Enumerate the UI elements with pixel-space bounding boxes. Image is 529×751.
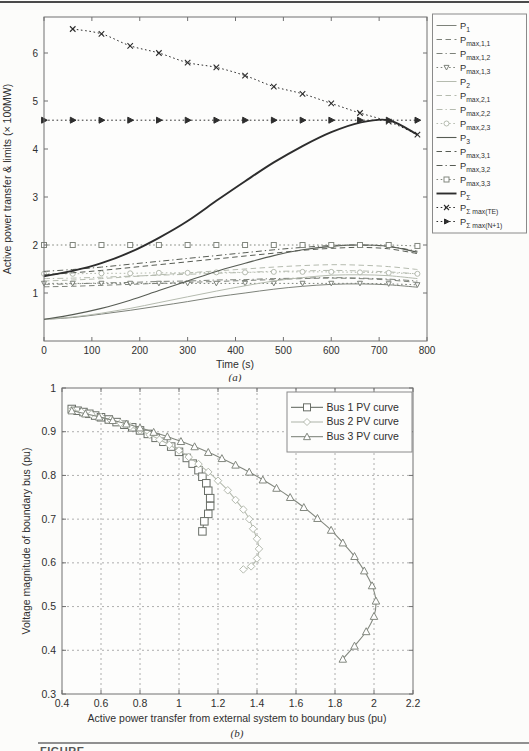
marker-square bbox=[206, 494, 214, 502]
y-tick-label: 0.3 bbox=[41, 688, 56, 700]
marker-square bbox=[203, 480, 211, 488]
y-tick-label: 2 bbox=[32, 240, 38, 251]
marker-square bbox=[304, 404, 311, 411]
marker-square bbox=[206, 502, 214, 510]
marker-circle bbox=[243, 270, 248, 275]
x-tick-label: 1.4 bbox=[250, 697, 265, 709]
marker-circle bbox=[386, 270, 391, 275]
x-tick-label: 400 bbox=[227, 345, 244, 356]
marker-square bbox=[357, 243, 362, 248]
marker-square bbox=[271, 243, 276, 248]
x-tick-label: 500 bbox=[275, 345, 292, 356]
marker-square bbox=[70, 243, 75, 248]
marker-square bbox=[329, 243, 334, 248]
x-tick-label: 300 bbox=[179, 345, 196, 356]
marker-circle bbox=[156, 270, 161, 275]
marker-circle bbox=[99, 271, 104, 276]
y-tick-label: 5 bbox=[32, 96, 38, 107]
y-tick-label: 3 bbox=[32, 192, 38, 203]
plot-background bbox=[44, 17, 427, 341]
chart-a-caption: (a) bbox=[229, 371, 242, 382]
x-tick-label: 1.6 bbox=[289, 697, 304, 709]
marker-square bbox=[205, 487, 213, 495]
marker-square bbox=[386, 243, 391, 248]
legend: P1Pmax,1,1Pmax,1,2Pmax,1,3P2Pmax,2,1Pmax… bbox=[433, 14, 527, 233]
legend-label: Bus 3 PV curve bbox=[327, 430, 400, 442]
y-tick-label: 4 bbox=[32, 144, 38, 155]
figure-page: 0100200300400500600700800123456P1Pmax,1,… bbox=[0, 0, 529, 751]
marker-circle bbox=[128, 271, 133, 276]
chart-a-xlabel: Time (s) bbox=[216, 358, 254, 370]
marker-square bbox=[185, 243, 190, 248]
x-tick-label: 2.2 bbox=[406, 697, 421, 709]
y-tick-label: 1 bbox=[32, 288, 38, 299]
x-tick-label: 200 bbox=[131, 345, 148, 356]
marker-circle bbox=[357, 270, 362, 275]
chart-a-content: 0100200300400500600700800123456P1Pmax,1,… bbox=[32, 14, 526, 356]
x-tick-label: 0.6 bbox=[94, 697, 109, 709]
chart-a-ylabel: Active power transfer & limits (× 100MW) bbox=[1, 84, 13, 275]
chart-b-xlabel: Active power transfer from external syst… bbox=[88, 712, 387, 724]
marker-circle bbox=[271, 269, 276, 274]
x-tick-label: 0.4 bbox=[55, 697, 70, 709]
x-tick-label: 100 bbox=[84, 345, 101, 356]
marker-square bbox=[201, 518, 209, 526]
legend-label: Bus 2 PV curve bbox=[327, 415, 400, 427]
y-tick-label: 0.6 bbox=[41, 556, 56, 568]
x-tick-label: 1 bbox=[176, 697, 182, 709]
chart-a-active-power: 0100200300400500600700800123456P1Pmax,1,… bbox=[0, 0, 529, 382]
x-tick-label: 800 bbox=[419, 345, 436, 356]
marker-square bbox=[214, 243, 219, 248]
marker-circle bbox=[329, 269, 334, 274]
y-tick-label: 1 bbox=[50, 382, 56, 394]
marker-square bbox=[205, 510, 213, 518]
chart-b-ylabel: Voltage magnitude of boundary bus (pu) bbox=[20, 448, 32, 635]
marker-square bbox=[99, 243, 104, 248]
y-tick-label: 0.5 bbox=[41, 600, 56, 612]
marker-square bbox=[444, 177, 449, 182]
bottom-rule bbox=[38, 742, 529, 744]
marker-square bbox=[156, 243, 161, 248]
legend-label: Bus 1 PV curve bbox=[327, 401, 400, 413]
y-tick-label: 0.8 bbox=[41, 469, 56, 481]
x-tick-label: 600 bbox=[323, 345, 340, 356]
x-tick-label: 2 bbox=[371, 697, 377, 709]
marker-square bbox=[415, 243, 420, 248]
marker-circle bbox=[444, 121, 449, 126]
marker-square bbox=[300, 243, 305, 248]
chart-b-caption: (b) bbox=[231, 727, 244, 740]
marker-square bbox=[243, 243, 248, 248]
top-rule bbox=[0, 1, 529, 3]
chart-b-content: 0.40.60.811.21.41.61.822.20.30.40.50.60.… bbox=[41, 382, 420, 709]
marker-square bbox=[128, 243, 133, 248]
legend: Bus 1 PV curveBus 2 PV curveBus 3 PV cur… bbox=[287, 392, 412, 452]
marker-circle bbox=[185, 270, 190, 275]
x-tick-label: 1.8 bbox=[328, 697, 343, 709]
marker-circle bbox=[415, 271, 420, 276]
y-tick-label: 0.9 bbox=[41, 425, 56, 437]
marker-circle bbox=[300, 269, 305, 274]
marker-square bbox=[199, 528, 207, 536]
chart-b-pv-curves: 0.40.60.811.21.41.61.822.20.30.40.50.60.… bbox=[0, 382, 529, 751]
y-tick-label: 0.7 bbox=[41, 513, 56, 525]
x-tick-label: 700 bbox=[371, 345, 388, 356]
x-tick-label: 0.8 bbox=[133, 697, 148, 709]
figure-caption-partial: FIGURE bbox=[40, 745, 85, 751]
y-tick-label: 6 bbox=[32, 48, 38, 59]
x-tick-label: 1.2 bbox=[211, 697, 226, 709]
x-tick-label: 0 bbox=[41, 345, 47, 356]
y-tick-label: 0.4 bbox=[41, 644, 56, 656]
